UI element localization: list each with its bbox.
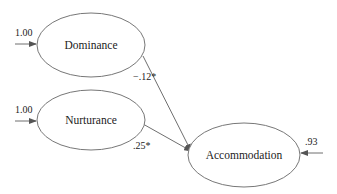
nurturance-input-arrow: 1.00 xyxy=(15,104,36,121)
accommodation-error-arrow: .93 xyxy=(301,136,323,153)
path-diagram: 1.00 1.00 .93 −.12* .25* Dominance Nurtu… xyxy=(0,0,337,194)
dominance-to-accommodation-path: −.12* xyxy=(133,56,191,151)
accommodation-error-value: .93 xyxy=(305,136,318,147)
node-accommodation: Accommodation xyxy=(188,123,300,187)
node-nurturance: Nurturance xyxy=(37,90,145,150)
nurturance-path-coefficient: .25* xyxy=(133,140,151,151)
accommodation-label: Accommodation xyxy=(206,149,283,161)
nurturance-label: Nurturance xyxy=(65,114,117,126)
dominance-input-arrow: 1.00 xyxy=(15,27,36,44)
node-dominance: Dominance xyxy=(37,13,145,77)
dominance-path-coefficient: −.12* xyxy=(133,71,156,82)
dominance-input-value: 1.00 xyxy=(15,27,33,38)
nurturance-input-value: 1.00 xyxy=(15,104,33,115)
dominance-label: Dominance xyxy=(64,39,117,51)
